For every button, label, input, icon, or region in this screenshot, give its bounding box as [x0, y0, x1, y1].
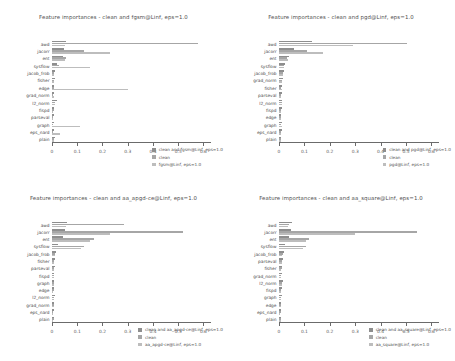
bar-rows: awdjacorrentsysflowjacob_frobgrad_normfi…: [279, 40, 439, 143]
bar: [279, 45, 353, 47]
bar-group: sysflow: [279, 243, 439, 250]
bar-group: awd: [279, 221, 439, 228]
bar: [52, 89, 128, 91]
y-axis-category-label: grad_norm: [253, 78, 276, 83]
x-axis-tick-label: 0.2: [326, 329, 333, 334]
legend-swatch: [383, 163, 387, 167]
bar: [52, 59, 65, 61]
y-axis-category-label: graph: [264, 122, 277, 127]
bar-group: l2_norm: [52, 294, 211, 301]
legend-item: aa_apgd-ce@Linf, eps=1.0: [138, 342, 223, 347]
bar-group: ent: [279, 55, 439, 62]
bar-group: jacob_frob: [279, 69, 439, 76]
bar: [279, 269, 281, 271]
bar-group: awd: [279, 40, 439, 47]
bar-group: jacob_frob: [52, 69, 211, 76]
y-axis-category-label: awd: [268, 222, 277, 227]
y-axis-category-label: ent: [269, 56, 276, 61]
x-axis-tick: [381, 143, 382, 146]
y-axis-category-label: grad_norm: [253, 273, 276, 278]
bar: [279, 118, 281, 120]
bar: [279, 299, 281, 301]
y-axis-category-label: l2_norm: [32, 295, 49, 300]
bar-group: sysflow: [52, 243, 211, 250]
y-axis-category-label: ent: [269, 237, 276, 242]
bar: [52, 269, 54, 271]
bar: [279, 59, 288, 61]
x-axis-tick: [304, 143, 305, 146]
y-axis-category-label: plain: [266, 137, 276, 142]
y-axis-category-label: parseval: [31, 266, 49, 271]
legend-swatch: [369, 343, 373, 347]
bar-group: parseval: [279, 92, 439, 99]
y-axis-category-label: jacob_frob: [254, 71, 276, 76]
legend-swatch: [152, 155, 156, 159]
bar-group: parseval: [52, 265, 211, 272]
y-axis-category-label: ent: [42, 56, 49, 61]
x-axis-tick: [355, 143, 356, 146]
bar-group: awd: [52, 40, 211, 47]
bar-group: awd: [52, 221, 211, 228]
y-axis-category-label: jacob_frob: [254, 251, 276, 256]
x-axis-tick: [128, 323, 129, 326]
x-axis-tick-label: 0.3: [352, 149, 359, 154]
y-axis-category-label: fispd: [266, 107, 276, 112]
bar: [52, 74, 54, 76]
legend-label: pgd@Linf, eps=1.0: [389, 162, 429, 167]
bar: [52, 118, 53, 120]
x-axis-tick-label: 0.3: [124, 149, 131, 154]
y-axis-category-label: edge: [266, 115, 277, 120]
legend-item: clean and pgd@Linf, eps=1.0: [383, 147, 451, 152]
x-axis-line: [279, 142, 439, 143]
legend: clean and fgsm@Linf, eps=1.0cleanfgsm@Li…: [152, 147, 223, 167]
bar-group: sysflow: [279, 62, 439, 69]
plot-area: awdjacorrentsysflowjacob_frobfisherparse…: [52, 221, 211, 323]
bar-group: fisher: [52, 257, 211, 264]
bar: [52, 133, 60, 135]
bar-rows: awdjacorrentsysflowjacob_frobfisheredgeg…: [52, 40, 211, 143]
bar-group: l2_norm: [279, 279, 439, 286]
legend-label: clean: [145, 335, 156, 340]
x-axis-tick: [52, 143, 53, 146]
y-axis-category-label: graph: [37, 280, 50, 285]
x-axis-tick: [406, 323, 407, 326]
bar: [279, 133, 281, 135]
y-axis-category-label: parseval: [258, 259, 276, 264]
bar: [52, 81, 54, 83]
x-axis-tick-label: 0.1: [301, 149, 308, 154]
bar-group: ent: [52, 55, 211, 62]
x-axis-line: [52, 142, 211, 143]
y-axis-category-label: eps_nard: [257, 129, 277, 134]
y-axis-category-label: edge: [39, 85, 50, 90]
x-axis-tick: [304, 323, 305, 326]
bar: [279, 233, 355, 235]
chart-panel-2: Feature importances - clean and aa_apgd-…: [0, 181, 227, 361]
bar-group: graph: [52, 279, 211, 286]
x-axis-tick-label: 0.1: [74, 149, 81, 154]
bar-group: eps_nard: [279, 128, 439, 135]
bar-group: fisher: [52, 77, 211, 84]
y-axis-category-label: sysflow: [261, 244, 277, 249]
legend-item: pgd@Linf, eps=1.0: [383, 162, 451, 167]
bar: [279, 111, 281, 113]
legend-item: fgsm@Linf, eps=1.0: [152, 162, 223, 167]
chart-title: Feature importances - clean and aa_apgd-…: [0, 195, 227, 201]
bar-group: edge: [52, 84, 211, 91]
x-axis-tick: [153, 143, 154, 146]
bar-group: fispd: [279, 106, 439, 113]
bar: [52, 313, 53, 315]
legend-item: clean and aa_square@Linf, eps=1.0: [369, 327, 451, 332]
x-axis-tick-label: 0.2: [326, 149, 333, 154]
bar: [52, 284, 54, 286]
y-axis-category-label: parseval: [258, 93, 276, 98]
legend-swatch: [369, 328, 373, 332]
legend-label: clean and aa_square@Linf, eps=1.0: [376, 327, 451, 332]
chart-title: Feature importances - clean and fgsm@Lin…: [0, 14, 227, 20]
bar-group: graph: [52, 121, 211, 128]
legend-item: clean: [369, 335, 451, 340]
bar-group: parseval: [279, 257, 439, 264]
y-axis-category-label: graph: [264, 295, 277, 300]
legend-label: clean: [159, 155, 170, 160]
bar-group: fispd: [279, 287, 439, 294]
bar: [279, 52, 323, 54]
